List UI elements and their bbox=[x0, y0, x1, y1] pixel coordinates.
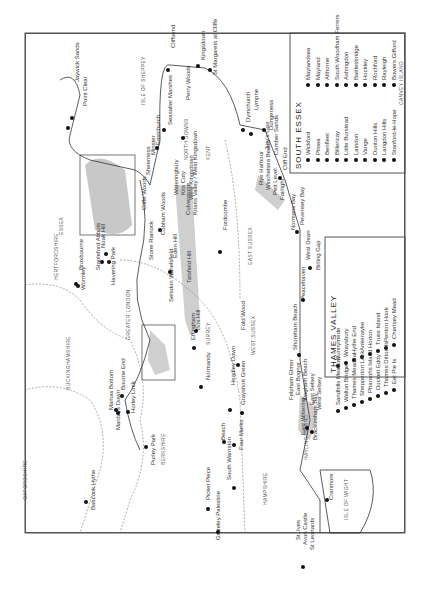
thames-valley-place-label: Shepperton Lock bbox=[359, 351, 365, 396]
county-label: ISLE OF WIGHT bbox=[343, 479, 349, 520]
county-label: HERTFORDSHIRE bbox=[53, 233, 59, 280]
county-label: GREATER LONDON bbox=[125, 289, 131, 340]
place-label: Wateringbury bbox=[173, 160, 179, 195]
site-marker bbox=[196, 64, 200, 68]
place-label: Jaywick Sands bbox=[74, 42, 80, 82]
thames-shade bbox=[148, 330, 170, 375]
thames-valley-place-label: Sandhills Meadow bbox=[335, 356, 341, 405]
thames-valley-place-label: Wraysbury bbox=[343, 328, 349, 357]
thames-valley-place-label: Thames Meadow bbox=[351, 353, 357, 399]
site-marker bbox=[373, 158, 377, 162]
place-label: Picket Piece bbox=[205, 467, 211, 500]
site-marker bbox=[376, 394, 380, 398]
site-marker bbox=[158, 228, 162, 232]
site-marker bbox=[336, 409, 340, 413]
place-label: East Bognor bbox=[295, 362, 301, 395]
south-essex-place-label: Bowers Gifford bbox=[391, 40, 397, 80]
site-marker bbox=[144, 445, 148, 449]
site-marker bbox=[199, 385, 203, 389]
site-marker bbox=[120, 394, 124, 398]
county-label: WEST SUSSEX bbox=[250, 316, 256, 355]
site-marker bbox=[354, 158, 358, 162]
place-label: Cliff End bbox=[282, 147, 288, 170]
place-label: Perry Woods bbox=[185, 65, 191, 100]
place-label: Bracklesham Bay bbox=[312, 393, 318, 440]
south-essex-place-label: Dunton Hills bbox=[372, 123, 378, 155]
essex-shade bbox=[85, 159, 132, 234]
thames-valley-place-label: Chertsey Mead bbox=[391, 298, 397, 339]
place-label: Fairlight bbox=[279, 179, 285, 200]
south-essex-place-label: Ashingdon bbox=[343, 52, 349, 80]
south-essex-place-label: Mayland bbox=[315, 57, 321, 80]
place-label: Shoreham Beach bbox=[292, 304, 298, 350]
thames-valley-place-label: Hythe End bbox=[351, 326, 357, 354]
place-label: St Leonards bbox=[309, 518, 315, 550]
site-marker bbox=[306, 158, 310, 162]
site-marker bbox=[368, 397, 372, 401]
thames-valley-place-label: Truss Island bbox=[375, 313, 381, 345]
site-marker bbox=[316, 83, 320, 87]
place-label: Avon Castle bbox=[302, 513, 308, 545]
site-marker bbox=[392, 343, 396, 347]
site-marker bbox=[249, 132, 253, 136]
place-label: Pett Level bbox=[272, 168, 278, 195]
site-marker bbox=[241, 128, 245, 132]
site-marker bbox=[344, 83, 348, 87]
south-essex-place-label: Althorne bbox=[324, 58, 330, 80]
place-label: Babcock Hythe bbox=[90, 470, 96, 510]
place-label: Culverstone bbox=[185, 183, 191, 215]
place-label: Noak Hill bbox=[100, 224, 106, 248]
place-label: Point Clear bbox=[82, 76, 88, 106]
south-essex-place-label: Little Burstead bbox=[343, 117, 349, 155]
place-label: Camber Sands bbox=[273, 115, 279, 155]
site-marker bbox=[382, 83, 386, 87]
site-marker bbox=[344, 406, 348, 410]
place-label: Fold Wood bbox=[240, 301, 246, 330]
site-marker bbox=[344, 158, 348, 162]
county-label: CANVEY ISLAND bbox=[398, 61, 404, 105]
place-label: Kingsdown bbox=[200, 31, 206, 60]
site-marker bbox=[116, 411, 120, 415]
thames-valley-place-label: Eel Pie Is bbox=[391, 359, 397, 384]
thames-valley-place-label: Horton bbox=[367, 330, 373, 348]
place-label: Purley Park bbox=[150, 434, 156, 465]
south-essex-place-label: Stanford-le-Hope bbox=[391, 109, 397, 155]
place-label: West Dean bbox=[305, 230, 311, 260]
place-label: Four Marks bbox=[238, 420, 244, 450]
site-marker bbox=[100, 260, 104, 264]
south-essex-place-label: Benfleet bbox=[324, 133, 330, 155]
site-marker bbox=[335, 158, 339, 162]
thames-valley-place-label: Walton Bridge bbox=[343, 365, 349, 402]
site-marker bbox=[166, 68, 170, 72]
south-essex-place-label: Laindon bbox=[353, 134, 359, 155]
place-label: Eastchurch bbox=[155, 115, 161, 145]
site-marker bbox=[352, 403, 356, 407]
site-marker bbox=[392, 83, 396, 87]
south-essex-place-label: Battlesbridge bbox=[353, 45, 359, 80]
place-label: Normans Bay bbox=[290, 194, 296, 230]
place-label: Selsdon Wd bbox=[168, 270, 174, 302]
county-label: OXFORDSHIRE bbox=[22, 460, 28, 500]
county-label: SURREY bbox=[205, 322, 211, 345]
south-essex-place-label: Maylandsea bbox=[305, 48, 311, 80]
site-marker bbox=[70, 116, 74, 120]
place-label: Rye Harbour bbox=[258, 151, 264, 185]
south-essex-place-label: Vange bbox=[362, 138, 368, 155]
site-marker bbox=[382, 158, 386, 162]
site-marker bbox=[206, 507, 210, 511]
site-marker bbox=[74, 282, 78, 286]
place-label: Dymchurch bbox=[245, 92, 251, 122]
thames-valley-place-label: Thames Ditton Is bbox=[383, 342, 389, 387]
south-essex-place-label: Wickford bbox=[305, 132, 311, 155]
south-essex-place-label: Pitsea bbox=[315, 138, 321, 155]
place-label: Broxbourne bbox=[78, 239, 84, 270]
place-label: Stone Rainock bbox=[148, 221, 154, 260]
site-marker bbox=[354, 83, 358, 87]
site-marker bbox=[301, 298, 305, 302]
county-label: HAMPSHIRE bbox=[262, 473, 268, 505]
site-marker bbox=[181, 136, 185, 140]
south-essex-place-label: Rayleigh bbox=[381, 57, 387, 80]
south-essex-place-label: South Woodham Ferrers bbox=[334, 14, 340, 80]
site-marker bbox=[376, 349, 380, 353]
place-label: Tatsfield Hill bbox=[186, 251, 192, 283]
